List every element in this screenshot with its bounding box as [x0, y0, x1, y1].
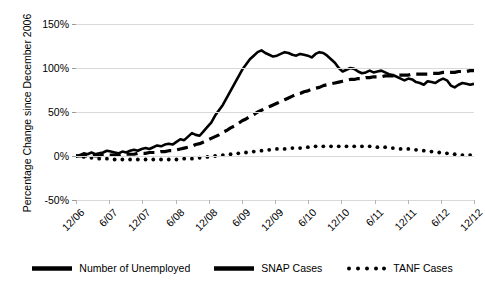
series-point-tanf-cases: [314, 144, 318, 148]
x-tick-mark: [441, 200, 442, 204]
series-point-tanf-cases: [422, 149, 426, 153]
x-tick-mark: [209, 200, 210, 204]
x-tick-mark: [341, 200, 342, 204]
x-tick-label: 6/10: [280, 206, 318, 244]
x-tick-label: 12/07: [115, 206, 153, 244]
series-point-tanf-cases: [151, 158, 155, 162]
series-point-tanf-cases: [430, 150, 434, 154]
y-tick-label: 50%: [17, 106, 69, 118]
series-point-tanf-cases: [113, 158, 117, 162]
y-tick-mark: [72, 68, 76, 69]
x-tick-label: 6/12: [413, 206, 451, 244]
series-point-tanf-cases: [306, 145, 310, 149]
x-tick-label: 12/09: [247, 206, 285, 244]
legend-item[interactable]: SNAP Cases: [214, 262, 322, 274]
x-tick-mark: [474, 200, 475, 204]
series-point-tanf-cases: [260, 149, 264, 153]
series-point-tanf-cases: [136, 158, 140, 162]
legend-swatch-icon: [32, 264, 72, 273]
x-tick-label: 6/08: [148, 206, 186, 244]
series-point-tanf-cases: [167, 158, 171, 162]
x-tick-mark: [76, 200, 77, 204]
series-point-tanf-cases: [445, 151, 449, 155]
series-point-tanf-cases: [391, 146, 395, 150]
legend-swatch-icon: [214, 264, 254, 273]
series-point-tanf-cases: [406, 147, 410, 151]
x-tick-label: 12/10: [314, 206, 352, 244]
series-point-tanf-cases: [267, 148, 271, 152]
legend-label: SNAP Cases: [261, 262, 322, 274]
x-tick-mark: [176, 200, 177, 204]
y-tick-mark: [72, 24, 76, 25]
series-point-tanf-cases: [252, 150, 256, 154]
series-point-tanf-cases: [159, 158, 163, 162]
legend-label: TANF Cases: [393, 262, 452, 274]
series-point-tanf-cases: [190, 157, 194, 161]
chart-figure: Percentage Change since December 2006 -5…: [0, 0, 485, 299]
series-point-tanf-cases: [360, 144, 364, 148]
series-point-tanf-cases: [236, 151, 240, 155]
y-tick-label: 0%: [17, 150, 69, 162]
series-point-tanf-cases: [97, 157, 101, 161]
gridline: [76, 112, 474, 113]
series-point-tanf-cases: [283, 147, 287, 151]
series-point-tanf-cases: [383, 145, 387, 149]
series-point-tanf-cases: [337, 144, 341, 148]
y-tick-label: 150%: [17, 18, 69, 30]
series-line-snap-cases: [76, 71, 474, 156]
gridline: [76, 68, 474, 69]
x-tick-label: 12/06: [48, 206, 86, 244]
chart-legend: Number of UnemployedSNAP CasesTANF Cases: [0, 262, 485, 274]
series-point-tanf-cases: [368, 144, 372, 148]
x-tick-label: 12/12: [446, 206, 484, 244]
series-point-tanf-cases: [128, 158, 132, 162]
x-tick-mark: [109, 200, 110, 204]
series-point-tanf-cases: [275, 147, 279, 151]
series-point-tanf-cases: [105, 157, 109, 161]
series-point-tanf-cases: [120, 158, 124, 162]
series-point-tanf-cases: [290, 146, 294, 150]
series-point-tanf-cases: [175, 158, 179, 162]
series-point-tanf-cases: [352, 144, 356, 148]
legend-swatch-icon: [346, 264, 386, 273]
x-tick-label: 6/07: [81, 206, 119, 244]
x-tick-mark: [142, 200, 143, 204]
x-tick-label: 12/08: [181, 206, 219, 244]
series-point-tanf-cases: [329, 144, 333, 148]
series-point-tanf-cases: [182, 157, 186, 161]
series-point-tanf-cases: [414, 148, 418, 152]
legend-item[interactable]: TANF Cases: [346, 262, 452, 274]
series-point-tanf-cases: [399, 147, 403, 151]
gridline: [76, 24, 474, 25]
series-point-tanf-cases: [144, 158, 148, 162]
x-tick-mark: [242, 200, 243, 204]
x-tick-mark: [408, 200, 409, 204]
gridline: [76, 156, 474, 157]
y-tick-mark: [72, 112, 76, 113]
y-tick-mark: [72, 156, 76, 157]
plot-area: [76, 24, 474, 200]
y-tick-label: -50%: [17, 194, 69, 206]
legend-item[interactable]: Number of Unemployed: [32, 262, 190, 274]
series-point-tanf-cases: [345, 144, 349, 148]
series-point-tanf-cases: [321, 144, 325, 148]
y-tick-label: 100%: [17, 62, 69, 74]
x-tick-label: 12/11: [380, 206, 418, 244]
series-point-tanf-cases: [437, 151, 441, 155]
x-tick-mark: [308, 200, 309, 204]
x-tick-mark: [375, 200, 376, 204]
x-tick-label: 6/11: [347, 206, 385, 244]
legend-label: Number of Unemployed: [79, 262, 190, 274]
x-tick-mark: [275, 200, 276, 204]
x-tick-label: 6/09: [214, 206, 252, 244]
series-point-tanf-cases: [375, 145, 379, 149]
series-point-tanf-cases: [298, 146, 302, 150]
series-point-tanf-cases: [244, 151, 248, 155]
